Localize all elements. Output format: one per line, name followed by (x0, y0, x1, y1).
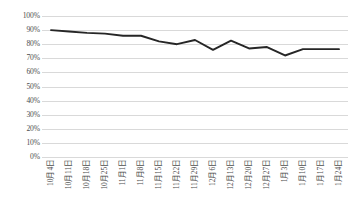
x-axis-tick: 10月4日 (44, 157, 58, 214)
y-axis-tick-label: 60% (0, 68, 40, 76)
x-axis-tick-label: 11月15日 (155, 159, 163, 189)
x-axis-tick-label: 1月24日 (335, 159, 343, 186)
x-axis: 10月4日10月11日10月18日10月25日11月1日11月8日11月15日1… (42, 157, 348, 214)
x-axis-tick-label: 11月29日 (191, 159, 199, 189)
x-axis-tick-label: 1月3日 (281, 159, 289, 182)
y-axis-tick-label: 30% (0, 111, 40, 119)
series-polyline (51, 30, 339, 55)
x-axis-tick: 1月3日 (278, 157, 292, 214)
plot-area (42, 16, 348, 157)
x-axis-tick-label: 12月13日 (227, 159, 235, 190)
x-axis-tick-label: 12月27日 (263, 159, 271, 190)
y-axis-tick-label: 10% (0, 139, 40, 147)
x-axis-tick: 12月6日 (206, 157, 220, 214)
y-axis: 100%90%80%70%60%50%40%30%20%10%0% (0, 0, 40, 214)
x-axis-tick-label: 1月17日 (317, 159, 325, 186)
x-axis-tick: 12月20日 (242, 157, 256, 214)
y-axis-tick-label: 20% (0, 125, 40, 133)
x-axis-tick-label: 10月25日 (101, 159, 109, 190)
x-axis-tick-label: 10月4日 (47, 159, 55, 186)
x-axis-tick-label: 11月8日 (137, 159, 145, 186)
y-axis-tick-label: 100% (0, 12, 40, 20)
x-axis-tick: 1月24日 (332, 157, 346, 214)
x-axis-tick: 12月13日 (224, 157, 238, 214)
x-axis-tick: 1月17日 (314, 157, 328, 214)
x-axis-tick: 11月29日 (188, 157, 202, 214)
x-axis-tick-label: 11月1日 (119, 159, 127, 186)
x-axis-tick: 12月27日 (260, 157, 274, 214)
x-axis-tick-label: 10月18日 (83, 159, 91, 190)
x-axis-tick: 1月10日 (296, 157, 310, 214)
x-axis-tick-label: 10月11日 (65, 159, 73, 189)
series-line (42, 16, 348, 157)
x-axis-tick-label: 11月22日 (173, 159, 181, 189)
x-axis-tick: 11月22日 (170, 157, 184, 214)
y-axis-tick-label: 70% (0, 54, 40, 62)
x-axis-tick: 11月8日 (134, 157, 148, 214)
x-axis-tick: 10月18日 (80, 157, 94, 214)
x-axis-tick: 10月25日 (98, 157, 112, 214)
x-axis-tick: 11月1日 (116, 157, 130, 214)
y-axis-tick-label: 90% (0, 26, 40, 34)
line-chart: 100%90%80%70%60%50%40%30%20%10%0% 10月4日1… (0, 0, 353, 214)
y-axis-tick-label: 50% (0, 83, 40, 91)
x-axis-tick: 10月11日 (62, 157, 76, 214)
y-axis-tick-label: 40% (0, 97, 40, 105)
x-axis-tick-label: 12月6日 (209, 159, 217, 186)
y-axis-tick-label: 0% (0, 153, 40, 161)
x-axis-tick-label: 1月10日 (299, 159, 307, 186)
x-axis-tick-label: 12月20日 (245, 159, 253, 190)
y-axis-tick-label: 80% (0, 40, 40, 48)
x-axis-tick: 11月15日 (152, 157, 166, 214)
